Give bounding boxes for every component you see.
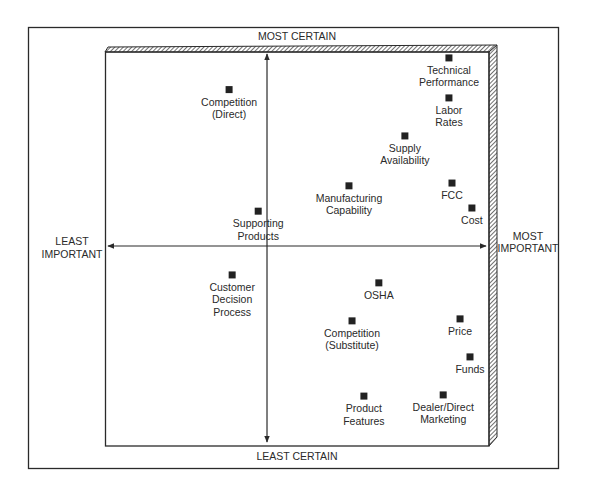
data-points: Competition(Direct)TechnicalPerformanceL… bbox=[201, 54, 485, 426]
point-label: Supply bbox=[389, 142, 422, 154]
point-competition-substitute: Competition(Substitute) bbox=[324, 317, 380, 351]
point-marker bbox=[445, 94, 452, 101]
box-top-edge bbox=[105, 45, 497, 52]
point-label: Competition bbox=[324, 327, 380, 339]
point-label: Manufacturing bbox=[316, 192, 383, 204]
point-label: Marketing bbox=[420, 413, 466, 425]
point-competition-direct: Competition(Direct) bbox=[201, 86, 257, 120]
point-supply-availability: SupplyAvailability bbox=[380, 132, 430, 166]
point-label: Labor bbox=[436, 104, 463, 116]
point-marker bbox=[229, 271, 236, 278]
point-marker bbox=[345, 182, 352, 189]
point-label: Availability bbox=[380, 154, 430, 166]
axis-label-bottom: LEAST CERTAIN bbox=[256, 450, 337, 462]
point-cost: Cost bbox=[461, 205, 483, 227]
point-label: Product bbox=[346, 402, 382, 414]
point-label: Cost bbox=[461, 214, 483, 226]
point-product-features: ProductFeatures bbox=[343, 393, 384, 427]
point-label: Features bbox=[343, 415, 384, 427]
point-marker bbox=[440, 391, 447, 398]
point-marker bbox=[226, 86, 233, 93]
point-label: Performance bbox=[419, 76, 479, 88]
point-osha: OSHA bbox=[364, 279, 394, 301]
point-technical-performance: TechnicalPerformance bbox=[419, 54, 479, 88]
box-right-edge bbox=[489, 45, 497, 446]
point-price: Price bbox=[448, 315, 472, 337]
point-label: Customer bbox=[209, 281, 255, 293]
point-labor-rates: LaborRates bbox=[435, 94, 463, 128]
point-manufacturing-capability: ManufacturingCapability bbox=[316, 182, 383, 216]
point-customer-decision-process: CustomerDecisionProcess bbox=[209, 271, 255, 318]
point-label: Price bbox=[448, 325, 472, 337]
point-marker bbox=[445, 54, 452, 61]
point-marker bbox=[255, 208, 262, 215]
point-label: Technical bbox=[427, 64, 471, 76]
point-dealer-direct-marketing: Dealer/DirectMarketing bbox=[413, 391, 474, 425]
point-label: Supporting bbox=[233, 217, 284, 229]
point-marker bbox=[360, 393, 367, 400]
point-supporting-products: SupportingProducts bbox=[233, 208, 284, 242]
point-label: Competition bbox=[201, 96, 257, 108]
axis-label-right-line2: IMPORTANT bbox=[498, 242, 559, 254]
point-label: Rates bbox=[435, 116, 462, 128]
point-marker bbox=[448, 180, 455, 187]
outer-frame bbox=[29, 28, 559, 469]
point-funds: Funds bbox=[455, 353, 484, 375]
axis-label-left-line2: IMPORTANT bbox=[42, 248, 103, 260]
point-label: Process bbox=[213, 306, 251, 318]
point-fcc: FCC bbox=[441, 180, 463, 202]
axis-label-left-line1: LEAST bbox=[55, 235, 89, 247]
point-label: (Substitute) bbox=[325, 339, 379, 351]
point-label: (Direct) bbox=[212, 108, 246, 120]
point-label: FCC bbox=[441, 189, 463, 201]
point-marker bbox=[401, 132, 408, 139]
point-label: Products bbox=[237, 230, 278, 242]
axis-label-top: MOST CERTAIN bbox=[258, 30, 336, 42]
point-marker bbox=[466, 353, 473, 360]
point-marker bbox=[468, 205, 475, 212]
plot-box bbox=[106, 52, 490, 446]
point-label: OSHA bbox=[364, 289, 394, 301]
importance-certainty-matrix: MOST CERTAIN LEAST CERTAIN LEAST IMPORTA… bbox=[0, 0, 595, 493]
axis-label-right-line1: MOST bbox=[513, 230, 544, 242]
point-marker bbox=[349, 317, 356, 324]
point-label: Capability bbox=[326, 204, 373, 216]
point-label: Dealer/Direct bbox=[413, 401, 474, 413]
point-label: Funds bbox=[455, 363, 484, 375]
point-marker bbox=[375, 279, 382, 286]
point-label: Decision bbox=[212, 293, 252, 305]
point-marker bbox=[457, 315, 464, 322]
